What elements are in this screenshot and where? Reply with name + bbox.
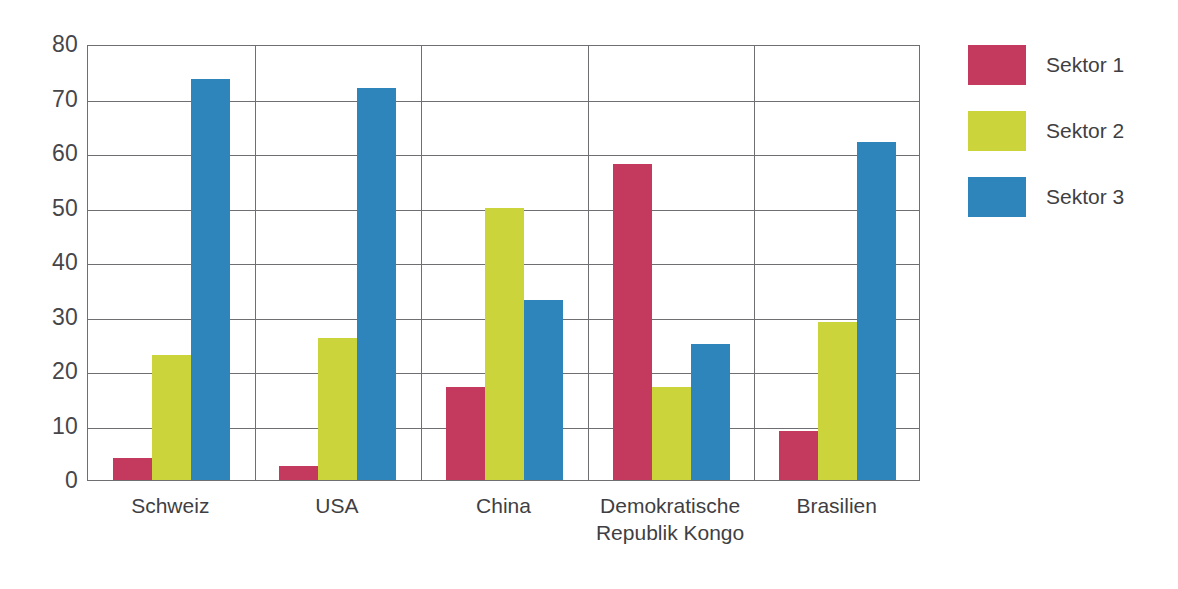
bar-sektor-1-schweiz <box>113 458 152 480</box>
legend-label: Sektor 3 <box>1046 185 1124 209</box>
y-tick-label-80: 80 <box>6 33 78 56</box>
x-axis: SchweizUSAChinaDemokratischeRepublik Kon… <box>87 492 920 562</box>
bar-sektor-2-brasilien <box>818 322 857 480</box>
bar-sektor-2-schweiz <box>152 355 191 480</box>
legend-item-sektor-3[interactable]: Sektor 3 <box>968 177 1168 217</box>
legend-item-sektor-2[interactable]: Sektor 2 <box>968 111 1168 151</box>
y-tick-label-0: 0 <box>6 469 78 492</box>
bar-sektor-3-demokratische-republik-kongo <box>691 344 730 480</box>
y-tick-label-60: 60 <box>6 142 78 165</box>
y-tick-label-50: 50 <box>6 197 78 220</box>
bars-layer <box>88 46 919 480</box>
y-tick-label-70: 70 <box>6 88 78 111</box>
legend-label: Sektor 2 <box>1046 119 1124 143</box>
plot-area <box>87 45 920 481</box>
x-category-label-brasilien: Brasilien <box>733 492 940 519</box>
bar-sektor-3-brasilien <box>857 142 896 480</box>
y-tick-label-10: 10 <box>6 415 78 438</box>
bar-chart: 01020304050607080 SchweizUSAChinaDemokra… <box>0 0 1178 589</box>
bar-sektor-2-demokratische-republik-kongo <box>652 387 691 480</box>
bar-sektor-2-china <box>485 208 524 481</box>
bar-sektor-3-usa <box>357 88 396 480</box>
y-tick-label-30: 30 <box>6 306 78 329</box>
legend-label: Sektor 1 <box>1046 53 1124 77</box>
y-tick-label-40: 40 <box>6 251 78 274</box>
bar-sektor-1-china <box>446 387 485 480</box>
legend-swatch-icon <box>968 111 1026 151</box>
bar-sektor-1-brasilien <box>779 431 818 480</box>
legend-swatch-icon <box>968 45 1026 85</box>
legend-swatch-icon <box>968 177 1026 217</box>
bar-sektor-3-china <box>524 300 563 480</box>
y-tick-label-20: 20 <box>6 360 78 383</box>
x-category-label-line: Brasilien <box>733 492 940 519</box>
bar-sektor-1-demokratische-republik-kongo <box>613 164 652 480</box>
bar-sektor-3-schweiz <box>191 79 230 480</box>
bar-sektor-2-usa <box>318 338 357 480</box>
legend-item-sektor-1[interactable]: Sektor 1 <box>968 45 1168 85</box>
bar-sektor-1-usa <box>279 466 318 480</box>
x-category-label-line: Republik Kongo <box>567 519 774 546</box>
